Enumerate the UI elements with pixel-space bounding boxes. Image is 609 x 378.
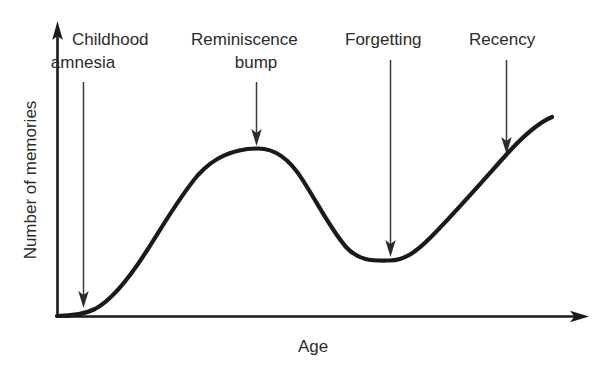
axes-group bbox=[52, 21, 589, 322]
annotation-label-childhood-amnesia-line2: amnesia bbox=[51, 53, 116, 72]
memory-curve-figure: Childhood amnesia Reminiscence bump Forg… bbox=[0, 0, 609, 378]
memory-curve-path bbox=[57, 117, 552, 316]
annotation-reminiscence-bump: Reminiscence bump bbox=[191, 30, 298, 146]
annotation-label-recency-line1: Recency bbox=[469, 30, 536, 49]
x-axis-label: Age bbox=[298, 337, 328, 356]
y-axis-label: Number of memories bbox=[21, 101, 40, 260]
annotation-forgetting: Forgetting bbox=[345, 30, 422, 257]
annotation-label-reminiscence-bump-line1: Reminiscence bbox=[191, 30, 298, 49]
annotation-label-childhood-amnesia-line1: Childhood bbox=[72, 30, 149, 49]
data-curve-group bbox=[57, 117, 552, 316]
annotation-label-reminiscence-bump-line2: bump bbox=[235, 53, 278, 72]
chart-canvas: Childhood amnesia Reminiscence bump Forg… bbox=[0, 0, 609, 378]
annotation-label-forgetting-line1: Forgetting bbox=[345, 30, 422, 49]
